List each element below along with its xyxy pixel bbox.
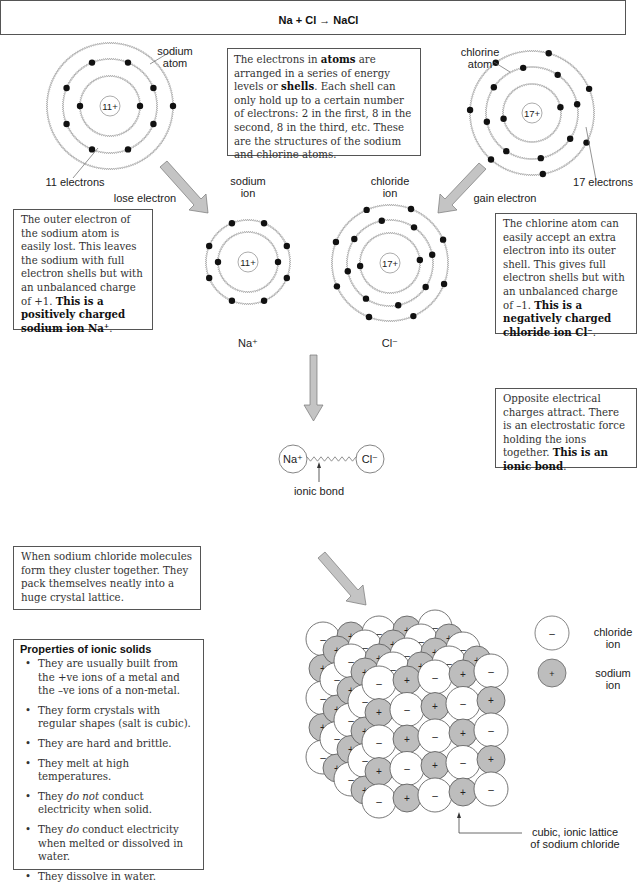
legend-sodium-label: sodium ion [590, 667, 636, 691]
label-line: atom [150, 57, 200, 69]
ion-charge-sign: + [460, 669, 466, 680]
lattice-pointer-arrowhead-icon [457, 812, 461, 818]
electron-dot [137, 103, 143, 109]
ion-charge-sign: + [404, 734, 410, 745]
sodium-explain-box: The outer electron of the sodium atom is… [13, 209, 153, 330]
electron-dot [351, 236, 357, 242]
electron-dot [150, 85, 156, 91]
sodium-explain-text: The outer electron of the sodium atom is… [21, 213, 145, 335]
gain-electron-label: gain electron [465, 192, 545, 204]
electron-dot [357, 263, 363, 269]
ion-charge-sign: – [460, 698, 466, 709]
electron-dot [554, 72, 560, 78]
electron-dot [284, 243, 290, 249]
electron-dot [125, 59, 131, 65]
svg-text:+: + [549, 669, 554, 679]
electron-dot [125, 146, 131, 152]
electron-dot [63, 85, 69, 91]
svg-text:–: – [549, 628, 555, 639]
shells-intro-box: The electrons in atoms are arranged in a… [227, 48, 421, 156]
electron-dot [467, 107, 473, 113]
nucleus-charge: 11+ [102, 101, 118, 112]
electron-dot [215, 259, 221, 265]
ion-charge-sign: + [460, 728, 466, 739]
label-line: chlorine [455, 46, 505, 58]
electron-dot [567, 135, 573, 141]
ion-charge-sign: – [376, 678, 382, 689]
bond-explain-text: Opposite electrical charges attract. The… [503, 392, 629, 474]
ion-charge-sign: + [460, 787, 466, 798]
ion-charge-sign: + [376, 707, 382, 718]
lattice-leader-line [459, 818, 522, 833]
bond-explain-box: Opposite electrical charges attract. The… [495, 388, 637, 468]
bond-zigzag-line [307, 457, 356, 461]
bond-sodium-symbol: Na⁺ [279, 453, 307, 465]
ion-charge-sign: – [460, 757, 466, 768]
lose-electron-label: lose electron [105, 192, 185, 204]
label-line: ion [365, 187, 415, 199]
property-item: They do not conduct electricity when sol… [20, 790, 197, 817]
ion-charge-sign: – [404, 763, 410, 774]
label-line: chloride [590, 626, 636, 638]
ion-charge-sign: – [488, 725, 494, 736]
properties-box: Properties of ionic solids They are usua… [13, 639, 204, 870]
nucleus-charge: 17+ [524, 108, 541, 119]
chloride-ion-symbol: Cl⁻ [370, 337, 410, 349]
gain-electron-arrow-icon [438, 163, 486, 213]
to-lattice-arrow-icon [318, 552, 366, 605]
sodium-ion-diagram: 11+ [205, 219, 291, 305]
ion-charge-sign: – [432, 790, 438, 801]
electron-dot [520, 65, 526, 71]
electron-dot [500, 116, 506, 122]
electron-dot [150, 121, 156, 127]
electron-dot [275, 259, 281, 265]
lattice-explain-box: When sodium chloride molecules form they… [13, 546, 201, 610]
electron-dot [488, 156, 494, 162]
electron-dot [89, 146, 95, 152]
electron-dot [284, 275, 290, 281]
property-item: They dissolve in water. [20, 870, 197, 884]
lose-electron-arrow-icon [160, 161, 208, 213]
bond-pointer-arrowhead-icon [317, 462, 321, 468]
ion-charge-sign: + [404, 793, 410, 804]
ion-charge-sign: – [376, 796, 382, 807]
electron-dot [261, 220, 267, 226]
ion-charge-sign: + [376, 766, 382, 777]
down-arrow-icon [304, 355, 323, 421]
label-line: sodium [150, 45, 200, 57]
electron-dot [89, 59, 95, 65]
electron-dot [206, 243, 212, 249]
lattice-label: cubic, ionic lattice of sodium chloride [520, 826, 630, 850]
ion-charge-sign: – [488, 784, 494, 795]
sodium-electrons-label: 11 electrons [40, 176, 110, 188]
ion-charge-sign: – [432, 731, 438, 742]
electron-dot [557, 104, 563, 110]
ion-charge-sign: + [488, 754, 494, 765]
lattice-explain-text: When sodium chloride molecules form they… [21, 550, 193, 604]
label-line: ion [590, 679, 636, 691]
nacl-lattice: –+–+–+–+–+–+–+–+–+–+–+–+–+–+–+–+–+–+–+–+… [306, 610, 508, 818]
label-line: ion [590, 638, 636, 650]
electron-dot [395, 302, 401, 308]
nucleus-charge: 11+ [240, 257, 256, 268]
legend-chloride-label: chloride ion [590, 626, 636, 650]
properties-list: They are usually built from the +ve ions… [20, 657, 197, 883]
sodium-atom-label: sodium atom [150, 45, 200, 69]
chloride-ion-diagram: 17+ [331, 204, 449, 322]
property-item: They do conduct electricity when melted … [20, 823, 197, 864]
electron-dot [229, 298, 235, 304]
label-line: chloride [365, 175, 415, 187]
label-line: cubic, ionic lattice [520, 826, 630, 838]
property-item: They melt at high temperatures. [20, 757, 197, 784]
label-line: sodium [225, 175, 271, 187]
chloride-ion-label: chloride ion [365, 175, 415, 199]
bond-chloride-symbol: Cl⁻ [356, 453, 384, 465]
properties-title: Properties of ionic solids [20, 643, 197, 655]
sodium-electrons-leader [73, 148, 98, 178]
property-item: They are usually built from the +ve ions… [20, 657, 197, 698]
electron-dot [429, 252, 435, 258]
electron-dot [229, 220, 235, 226]
electron-dot [411, 224, 417, 230]
label-line: ion [225, 187, 271, 199]
electron-dot [261, 298, 267, 304]
